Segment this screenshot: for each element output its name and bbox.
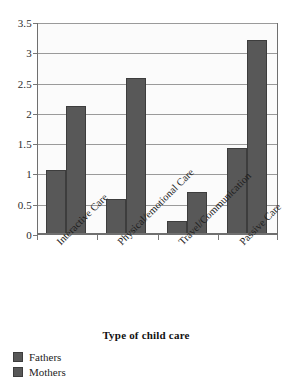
- legend-item: Fathers: [13, 350, 133, 364]
- y-tick-label: 2.5: [18, 78, 32, 89]
- bar-mothers-3: [247, 40, 267, 234]
- chart-legend: FathersMothers: [13, 350, 133, 380]
- y-tick-label: 0.5: [18, 199, 32, 210]
- legend-swatch-icon: [13, 367, 23, 377]
- y-axis: 00.511.522.533.5: [0, 23, 32, 235]
- legend-item: Mothers: [13, 365, 133, 379]
- legend-label: Mothers: [29, 367, 66, 378]
- bar-fathers-0: [46, 170, 66, 234]
- y-tick-label: 1: [26, 169, 32, 180]
- bar-chart: 00.511.522.533.5 Interactive CarePhysica…: [0, 0, 292, 381]
- x-axis-title: Type of child care: [0, 329, 292, 341]
- y-tick-label: 2: [26, 108, 32, 119]
- y-tick-label: 1.5: [18, 139, 32, 150]
- y-tick-label: 3.5: [18, 18, 32, 29]
- legend-swatch-icon: [13, 352, 23, 362]
- y-tick-label: 3: [26, 48, 32, 59]
- legend-label: Fathers: [29, 352, 61, 363]
- bar-fathers-1: [106, 199, 126, 234]
- x-axis-category-labels: Interactive CarePhysical/emotional CareT…: [0, 236, 292, 322]
